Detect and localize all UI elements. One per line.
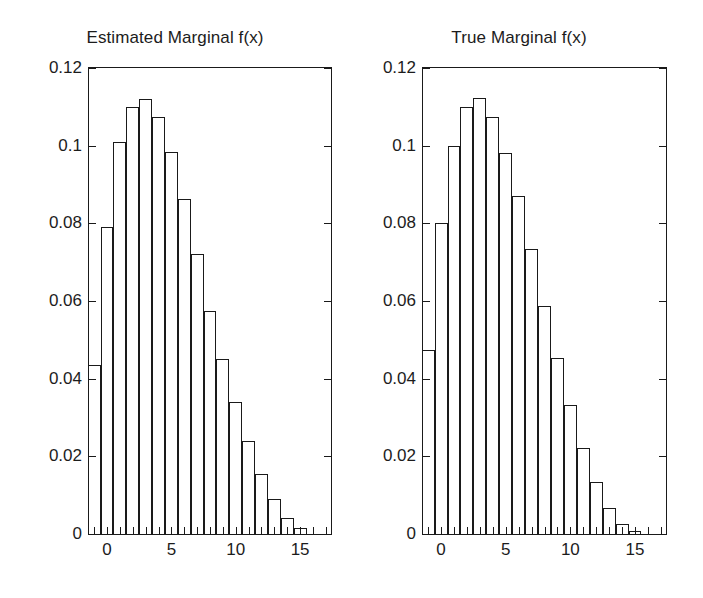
- y-axis-tick: [324, 456, 331, 457]
- y-axis-tick: [324, 379, 331, 380]
- y-axis-tick: [324, 68, 331, 69]
- x-axis-tick-label: 5: [501, 540, 510, 560]
- y-axis-tick: [659, 301, 666, 302]
- histogram-bar: [191, 254, 204, 534]
- y-axis-tick: [423, 223, 430, 224]
- histogram-bar: [229, 402, 242, 534]
- y-axis-tick-label: 0.08: [49, 213, 82, 233]
- panel-true-marginal: True Marginal f(x) 0.120.10.080.060.040.…: [334, 0, 685, 598]
- histogram-bar: [564, 405, 577, 534]
- y-axis-tick-label: 0.12: [49, 58, 82, 78]
- histogram-bar: [525, 249, 538, 534]
- x-axis-minor-tick: [94, 527, 95, 534]
- y-axis-tick: [89, 68, 96, 69]
- histogram-bar: [448, 146, 461, 534]
- x-axis-minor-tick: [223, 527, 224, 534]
- panel-title: True Marginal f(x): [364, 28, 674, 48]
- histogram-bar: [255, 474, 268, 534]
- y-axis-tick: [659, 68, 666, 69]
- y-axis-tick: [324, 223, 331, 224]
- y-axis-tick-label: 0.06: [383, 291, 416, 311]
- histogram-bar: [216, 359, 229, 534]
- figure-canvas: Estimated Marginal f(x) 0.120.10.080.060…: [0, 0, 703, 598]
- y-axis-tick: [659, 223, 666, 224]
- x-axis-tick-label: 15: [291, 540, 310, 560]
- y-axis-tick: [89, 379, 96, 380]
- histogram-bar: [473, 98, 486, 534]
- x-axis-minor-tick: [532, 527, 533, 534]
- x-axis-minor-tick: [622, 527, 623, 534]
- x-axis-minor-tick: [287, 527, 288, 534]
- histogram-bar: [89, 365, 101, 534]
- y-axis-tick: [659, 146, 666, 147]
- y-axis-tick: [659, 379, 666, 380]
- x-axis-minor-tick: [519, 527, 520, 534]
- x-axis-minor-tick: [441, 527, 442, 534]
- x-axis-minor-tick: [661, 527, 662, 534]
- plot-axes: 0.120.10.080.060.040.020051015: [422, 67, 667, 535]
- x-axis-minor-tick: [428, 527, 429, 534]
- x-axis-minor-tick: [171, 527, 172, 534]
- x-axis-minor-tick: [545, 527, 546, 534]
- histogram-bar: [165, 152, 178, 535]
- histogram-bar: [499, 153, 512, 534]
- y-axis-tick-label: 0.04: [383, 369, 416, 389]
- x-axis-minor-tick: [300, 527, 301, 534]
- y-axis-tick: [324, 301, 331, 302]
- histogram-bar: [204, 311, 217, 534]
- x-axis-minor-tick: [635, 527, 636, 534]
- x-axis-tick-label: 15: [626, 540, 645, 560]
- y-axis-tick: [89, 146, 96, 147]
- x-axis-minor-tick: [583, 527, 584, 534]
- histogram-bar: [486, 117, 499, 534]
- x-axis-tick-label: 10: [561, 540, 580, 560]
- x-axis-minor-tick: [467, 527, 468, 534]
- x-axis-tick-label: 0: [102, 540, 111, 560]
- y-axis-tick: [89, 301, 96, 302]
- histogram-bars: [423, 68, 666, 534]
- y-axis-tick-label: 0: [407, 524, 416, 544]
- x-axis-minor-tick: [557, 527, 558, 534]
- histogram-bar: [126, 107, 139, 534]
- panel-estimated-marginal: Estimated Marginal f(x) 0.120.10.080.060…: [0, 0, 351, 598]
- y-axis-tick-label: 0.02: [383, 446, 416, 466]
- y-axis-tick: [423, 68, 430, 69]
- histogram-bar: [460, 107, 473, 534]
- x-axis-minor-tick: [596, 527, 597, 534]
- x-axis-tick-label: 10: [226, 540, 245, 560]
- x-axis-minor-tick: [120, 527, 121, 534]
- x-axis-minor-tick: [648, 527, 649, 534]
- x-axis-minor-tick: [506, 527, 507, 534]
- x-axis-minor-tick: [570, 527, 571, 534]
- histogram-bar: [242, 441, 255, 534]
- x-axis-minor-tick: [326, 527, 327, 534]
- y-axis-tick: [89, 534, 96, 535]
- y-axis-tick: [423, 146, 430, 147]
- histogram-bar: [139, 99, 152, 534]
- histogram-bar: [512, 196, 525, 534]
- x-axis-minor-tick: [274, 527, 275, 534]
- y-axis-tick-label: 0.04: [49, 369, 82, 389]
- x-axis-minor-tick: [107, 527, 108, 534]
- histogram-bar: [435, 223, 448, 534]
- x-axis-minor-tick: [184, 527, 185, 534]
- y-axis-tick-label: 0.06: [49, 291, 82, 311]
- x-axis-minor-tick: [146, 527, 147, 534]
- y-axis-tick-label: 0.1: [392, 136, 416, 156]
- histogram-bar: [551, 358, 564, 534]
- x-axis-minor-tick: [133, 527, 134, 534]
- x-axis-minor-tick: [609, 527, 610, 534]
- y-axis-tick: [89, 223, 96, 224]
- x-axis-minor-tick: [454, 527, 455, 534]
- y-axis-tick: [423, 456, 430, 457]
- y-axis-tick-label: 0.1: [58, 136, 82, 156]
- histogram-bar: [101, 227, 114, 534]
- x-axis-minor-tick: [313, 527, 314, 534]
- x-axis-tick-label: 0: [436, 540, 445, 560]
- histogram-bar: [538, 306, 551, 534]
- y-axis-tick-label: 0.08: [383, 213, 416, 233]
- y-axis-tick: [423, 379, 430, 380]
- x-axis-minor-tick: [197, 527, 198, 534]
- x-axis-minor-tick: [261, 527, 262, 534]
- histogram-bar: [113, 142, 126, 534]
